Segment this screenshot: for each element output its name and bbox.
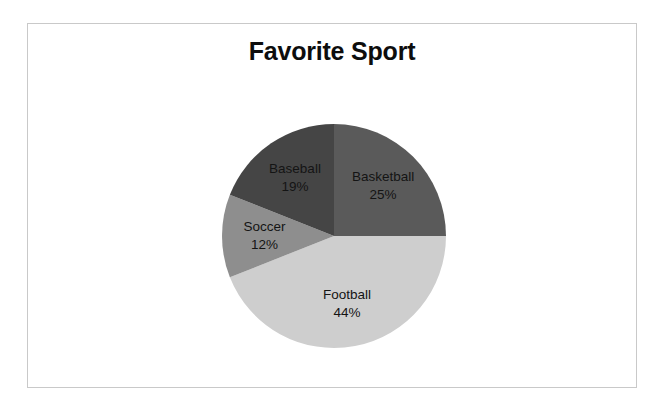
slice-label-football: Football (323, 287, 371, 302)
slice-value-football: 44% (333, 305, 360, 320)
slice-label-basketball: Basketball (352, 169, 414, 184)
slice-label-baseball: Baseball (269, 161, 321, 176)
slice-value-basketball: 25% (370, 187, 397, 202)
pie-chart-svg: Basketball25%Football44%Soccer12%Basebal… (28, 24, 638, 389)
pie-chart-area: Basketball25%Football44%Soccer12%Basebal… (28, 24, 638, 389)
slice-label-soccer: Soccer (244, 219, 287, 234)
slice-value-soccer: 12% (251, 237, 278, 252)
chart-frame: Favorite Sport Basketball25%Football44%S… (27, 23, 637, 388)
slice-value-baseball: 19% (281, 179, 308, 194)
